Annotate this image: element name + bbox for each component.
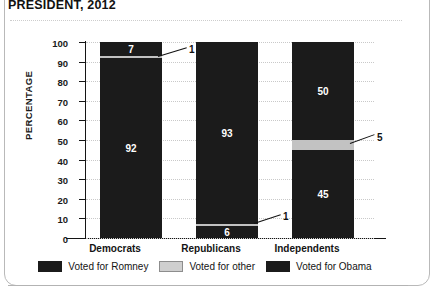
y-axis-label-80: 80: [57, 77, 68, 88]
bar-segment-republicans-romney[interactable]: 93: [196, 42, 258, 224]
y-axis-label-10: 10: [57, 214, 68, 225]
bar-value-democrats-romney: 7: [100, 43, 162, 54]
plot-area: 100 90 80 70 60 50 40 30 20 10 0 9: [86, 42, 374, 238]
bar-republicans[interactable]: 6 93: [196, 42, 258, 238]
callout-value-independents-other: 5: [377, 132, 383, 143]
chart-legend: Voted for Romney Voted for other Voted f…: [0, 261, 410, 272]
bar-segment-republicans-obama[interactable]: 6: [196, 226, 258, 238]
bar-segment-independents-romney[interactable]: 50: [292, 42, 354, 140]
page-title: PRESIDENT, 2012: [8, 0, 116, 12]
callout-leader-democrats-other: [158, 47, 187, 57]
x-axis-label-republicans: Republicans: [165, 243, 257, 254]
y-tick-70: 70: [79, 101, 86, 102]
y-tick-30: 30: [79, 179, 86, 180]
y-axis-title: PERCENTAGE: [23, 71, 34, 140]
x-axis-label-independents: Independents: [261, 243, 353, 254]
bar-segment-democrats-obama[interactable]: 92: [100, 58, 162, 238]
y-tick-90: 90: [79, 62, 86, 63]
bar-segment-republicans-other[interactable]: [196, 224, 258, 226]
legend-item-romney[interactable]: Voted for Romney: [38, 261, 148, 272]
legend-swatch-other: [159, 261, 183, 272]
bar-segment-democrats-romney[interactable]: 7: [100, 42, 162, 56]
gridline-0: [86, 238, 374, 239]
bar-value-democrats-obama: 92: [100, 142, 162, 153]
y-axis-label-40: 40: [57, 155, 68, 166]
y-axis-label-70: 70: [57, 96, 68, 107]
y-axis-label-60: 60: [57, 116, 68, 127]
legend-label-obama: Voted for Obama: [296, 261, 372, 272]
y-axis-label-30: 30: [57, 175, 68, 186]
bar-value-republicans-romney: 93: [196, 128, 258, 139]
y-axis-label-50: 50: [57, 136, 68, 147]
legend-swatch-obama: [266, 261, 290, 272]
y-tick-50: 50: [79, 140, 86, 141]
y-tick-40: 40: [79, 160, 86, 161]
title-divider: [10, 20, 402, 21]
bar-value-independents-obama: 45: [292, 188, 354, 199]
y-axis-label-90: 90: [57, 57, 68, 68]
bar-value-independents-romney: 50: [292, 86, 354, 97]
x-axis-label-democrats: Democrats: [69, 243, 161, 254]
y-tick-20: 20: [79, 199, 86, 200]
legend-label-other: Voted for other: [189, 261, 255, 272]
legend-label-romney: Voted for Romney: [68, 261, 148, 272]
y-tick-60: 60: [79, 120, 86, 121]
y-tick-100: 100: [79, 42, 86, 43]
callout-value-republicans-other: 1: [283, 211, 289, 222]
y-axis-label-100: 100: [52, 38, 68, 49]
callout-value-democrats-other: 1: [189, 44, 195, 55]
bar-segment-democrats-other[interactable]: [100, 56, 162, 58]
bar-segment-independents-other[interactable]: [292, 140, 354, 150]
bar-segment-independents-obama[interactable]: 45: [292, 150, 354, 238]
y-axis-label-0: 0: [63, 234, 68, 245]
legend-item-obama[interactable]: Voted for Obama: [266, 261, 372, 272]
legend-swatch-romney: [38, 261, 62, 272]
y-axis-label-20: 20: [57, 194, 68, 205]
bar-independents[interactable]: 45 50: [292, 42, 354, 238]
bar-democrats[interactable]: 92 7: [100, 42, 162, 238]
bar-value-republicans-obama: 6: [196, 227, 258, 238]
y-tick-0: 0: [79, 238, 86, 239]
legend-item-other[interactable]: Voted for other: [159, 261, 255, 272]
card-bottom-divider: [8, 285, 408, 286]
y-tick-80: 80: [79, 81, 86, 82]
y-tick-10: 10: [79, 218, 86, 219]
